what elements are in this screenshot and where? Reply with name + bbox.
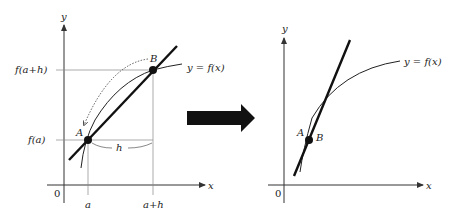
point-a-label: A bbox=[75, 127, 83, 138]
x-tick-a: a bbox=[85, 199, 91, 210]
point-ab bbox=[305, 136, 313, 144]
left-x-axis-label: x bbox=[208, 180, 214, 191]
secant-line bbox=[69, 46, 177, 160]
left-curve bbox=[81, 64, 182, 168]
right-origin-label: 0 bbox=[275, 188, 281, 199]
right-curve-label: y = f(x) bbox=[403, 56, 442, 67]
y-tick-f-a: f(a) bbox=[27, 134, 46, 145]
x-tick-a-plus-h: a+h bbox=[143, 199, 164, 210]
point-a bbox=[84, 136, 92, 144]
left-y-axis-label: y bbox=[60, 11, 67, 22]
secant-to-tangent-diagram: y x 0 f(a+h) f(a) a a+h h y = f(x) A B bbox=[0, 0, 465, 218]
left-origin-label: 0 bbox=[54, 188, 60, 199]
y-tick-f-a-plus-h: f(a+h) bbox=[14, 64, 47, 75]
point-b-label: B bbox=[149, 53, 157, 64]
right-point-b-label: B bbox=[315, 132, 323, 143]
point-b bbox=[149, 66, 157, 74]
right-point-a-label: A bbox=[296, 127, 304, 138]
right-curve bbox=[300, 61, 400, 172]
approach-arrow bbox=[84, 59, 148, 125]
right-panel: y x 0 y = f(x) A B bbox=[268, 23, 442, 203]
right-y-axis-label: y bbox=[281, 23, 288, 34]
tangent-line bbox=[294, 40, 350, 176]
left-curve-label: y = f(x) bbox=[186, 62, 225, 73]
left-panel: y x 0 f(a+h) f(a) a a+h h y = f(x) A B bbox=[14, 11, 225, 210]
transition-arrow-icon bbox=[187, 104, 255, 132]
right-x-axis-label: x bbox=[426, 180, 432, 191]
interval-h-label: h bbox=[116, 142, 122, 153]
